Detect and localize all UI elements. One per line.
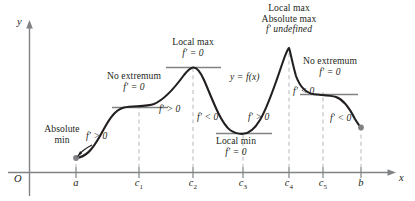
sign-label-fprime-negative-c2-c3: f′ < 0 — [197, 112, 218, 123]
tick-label-c1-sub: 1 — [140, 183, 144, 191]
annotation-absolute-min: Absolute min — [44, 124, 79, 145]
tick-label-c5: c5 — [319, 177, 327, 192]
tick-label-c2: c2 — [189, 177, 197, 192]
tick-label-c3-sub: 3 — [244, 183, 248, 191]
tick-label-c4-sub: 4 — [290, 183, 294, 191]
x-axis-label: x — [399, 172, 404, 184]
annotation-local-min-c3: Local min f′ = 0 — [216, 136, 256, 157]
tick-label-b-text: b — [358, 177, 363, 188]
y-axis — [26, 20, 33, 196]
x-axis — [8, 169, 396, 176]
annotation-no-extremum-c5-line-2: f′ = 0 — [303, 67, 357, 78]
tick-label-c2-sub: 2 — [194, 183, 198, 191]
tick-label-a: a — [73, 177, 78, 192]
annotation-local-max-c2: Local max f′ = 0 — [172, 37, 214, 58]
annotation-no-extremum-c1: No extremum f′ = 0 — [107, 71, 161, 92]
tick-label-c4: c4 — [285, 177, 293, 192]
sign-label-fprime-positive-c3-c4: f′ > 0 — [248, 112, 269, 123]
annotation-local-max-c2-line-2: f′ = 0 — [172, 48, 214, 59]
sign-label-fprime-positive-c1-c2: f′ > 0 — [159, 104, 180, 115]
sign-label-fprime-positive-a-c1: f′ > 0 — [86, 131, 107, 142]
annotation-no-extremum-c5: No extremum f′ = 0 — [303, 56, 357, 77]
tick-label-a-text: a — [73, 177, 78, 188]
annotation-no-extremum-c1-line-2: f′ = 0 — [107, 82, 161, 93]
annotation-local-max-absolute-max-c4: Local max Absolute max f′ undefined — [262, 3, 317, 35]
sign-label-fprime-negative-c5-b: f′ < 0 — [330, 113, 351, 124]
tick-label-c3: c3 — [239, 177, 247, 192]
annotation-c4-line-3: f′ undefined — [262, 24, 317, 35]
function-label: y = f(x) — [230, 72, 260, 83]
tick-label-b: b — [358, 177, 363, 192]
tick-label-c1: c1 — [135, 177, 143, 192]
annotation-absolute-min-line-2: min — [44, 135, 79, 146]
y-axis-label: y — [17, 16, 22, 28]
annotation-local-min-c3-line-2: f′ = 0 — [216, 147, 256, 158]
calculus-extrema-figure: y x O a c1 c2 c3 c4 c5 b Absolute min No… — [0, 0, 415, 201]
figure-canvas — [0, 0, 415, 201]
origin-label: O — [14, 173, 22, 185]
tick-label-c5-sub: 5 — [324, 183, 328, 191]
endpoint-dot-b — [358, 125, 364, 131]
sign-label-fprime-negative-c4-c5: f′ < 0 — [293, 86, 314, 97]
